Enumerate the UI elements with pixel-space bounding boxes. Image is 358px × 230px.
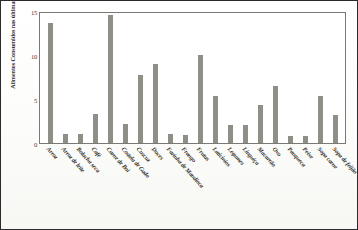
x-label-slot: Arroz de leite [57, 146, 72, 226]
bar [108, 15, 113, 143]
bar-slot [268, 13, 283, 143]
bar [168, 134, 173, 143]
x-label-slot: Cuscuz [133, 146, 148, 226]
bar [183, 135, 188, 143]
bar-slot [163, 13, 178, 143]
bar-slot [118, 13, 133, 143]
bar-slot [208, 13, 223, 143]
bar [288, 136, 293, 143]
y-tick-label: 5 [34, 97, 37, 104]
x-label-slot: Legumes [223, 146, 238, 226]
bar-slot [148, 13, 163, 143]
bar [78, 134, 83, 143]
bar-slot [298, 13, 313, 143]
bar-slot [328, 13, 343, 143]
bar [198, 55, 203, 143]
bar-slot [133, 13, 148, 143]
bar [318, 96, 323, 143]
bar-slot [58, 13, 73, 143]
x-label-slot: Bolacha seca [72, 146, 87, 226]
x-label-slot: Peixe [299, 146, 314, 226]
bar-slot [193, 13, 208, 143]
x-label-slot: Panqueca [284, 146, 299, 226]
bar-slot [313, 13, 328, 143]
bar [153, 64, 158, 143]
bar [303, 136, 308, 143]
bar [63, 134, 68, 143]
bar-slot [283, 13, 298, 143]
bar-slot [178, 13, 193, 143]
bar [228, 125, 233, 143]
x-label-slot: Ovo [268, 146, 283, 226]
x-label-slot: Sopa carne [314, 146, 329, 226]
y-tick-label: 10 [31, 53, 37, 60]
bar-slot [43, 13, 58, 143]
y-tick-label: 15 [31, 9, 37, 16]
bar [123, 124, 128, 143]
x-label-slot: Frango [178, 146, 193, 226]
x-label-slot: Arroz [42, 146, 57, 226]
x-label-slot: Costela de Gado [117, 146, 132, 226]
x-label-slot: Café [87, 146, 102, 226]
bar [243, 125, 248, 143]
bar [258, 105, 263, 143]
y-axis-tick-labels: 051015 [23, 12, 37, 144]
x-label-slot: Laticínios [208, 146, 223, 226]
bar-series [40, 13, 345, 143]
x-tick-label: Ovo [271, 146, 282, 157]
x-label-slot: Farinha de Mandioca [163, 146, 178, 226]
bar-slot [223, 13, 238, 143]
x-label-slot: Linguiça [238, 146, 253, 226]
bar-slot [88, 13, 103, 143]
x-label-slot: Frutas [193, 146, 208, 226]
plot-area [39, 12, 346, 144]
bar [273, 86, 278, 143]
y-tick-label: 0 [34, 141, 37, 148]
chart-figure: Alimentos Consumidos nas últimas 24h (%)… [0, 0, 358, 230]
x-tick-label: Sopa de feijão [332, 146, 358, 175]
y-axis-title: Alimentos Consumidos nas últimas 24h (%) [9, 0, 17, 97]
x-label-slot: Sopa de feijão [329, 146, 344, 226]
x-label-slot: Macarrão [253, 146, 268, 226]
bar-slot [253, 13, 268, 143]
bar [213, 96, 218, 143]
bar-slot [238, 13, 253, 143]
x-tick-label: Café [90, 146, 102, 158]
bar-slot [103, 13, 118, 143]
bar [48, 23, 53, 143]
x-axis-category-labels: ArrozArroz de leiteBolacha secaCaféCarne… [39, 146, 346, 226]
x-label-slot: Doces [148, 146, 163, 226]
bar [333, 115, 338, 143]
bar [138, 75, 143, 143]
bar [93, 114, 98, 143]
x-label-slot: Carne de Boi [102, 146, 117, 226]
bar-slot [73, 13, 88, 143]
